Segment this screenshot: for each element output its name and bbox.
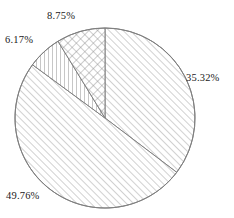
slice-label-35-32: 35.32% xyxy=(186,73,220,84)
slice-label-49-76: 49.76% xyxy=(6,191,40,202)
pie-slices xyxy=(15,28,195,208)
slice-label-8-75: 8.75% xyxy=(47,11,75,22)
slice-label-6-17: 6.17% xyxy=(5,35,33,46)
pie-chart: 8.75% 6.17% 35.32% 49.76% xyxy=(0,0,234,218)
pie-chart-canvas xyxy=(0,0,234,218)
